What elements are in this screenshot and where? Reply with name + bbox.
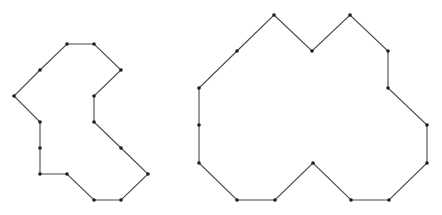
vertex-dot [92,42,96,46]
vertex-dot [235,49,239,53]
vertex-dot [38,172,42,176]
right-polygon-outline [199,15,427,200]
vertex-dot [386,49,390,53]
left-polygon [12,42,150,202]
vertex-dot [197,161,201,165]
vertex-dot [38,68,42,72]
vertex-dot [119,198,123,202]
vertex-dot [349,198,353,202]
vertex-dot [386,86,390,90]
vertex-dot [197,86,201,90]
vertex-dot [119,146,123,150]
vertex-dot [387,198,391,202]
right-polygon [197,13,429,202]
vertex-dot [38,120,42,124]
vertex-dot [310,49,314,53]
vertex-dot [119,68,123,72]
vertex-dot [235,198,239,202]
vertex-dot [92,198,96,202]
polygon-diagram [0,0,442,215]
vertex-dot [38,146,42,150]
vertex-dot [425,123,429,127]
left-polygon-outline [14,44,148,200]
vertex-dot [311,161,315,165]
vertex-dot [65,42,69,46]
vertex-dot [348,13,352,17]
vertex-dot [12,94,16,98]
vertex-dot [92,94,96,98]
vertex-dot [146,172,150,176]
vertex-dot [65,172,69,176]
vertex-dot [197,123,201,127]
vertex-dot [272,13,276,17]
vertex-dot [425,161,429,165]
vertex-dot [273,198,277,202]
vertex-dot [92,120,96,124]
